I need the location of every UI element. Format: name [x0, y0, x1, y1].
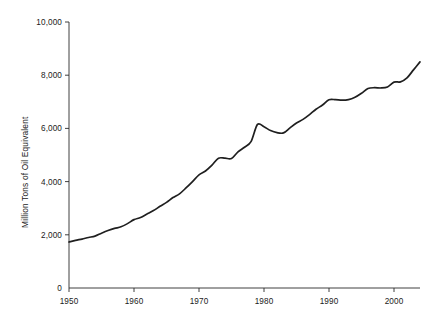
x-tick-label: 1980: [255, 297, 274, 306]
y-tick-label: 8,000: [41, 71, 62, 80]
y-tick-label: 10,000: [36, 18, 62, 27]
x-tick-label: 1990: [320, 297, 339, 306]
y-axis-ticks: [65, 22, 69, 235]
x-axis-ticks: [69, 288, 394, 292]
x-tick-label: 1970: [190, 297, 209, 306]
x-tick-label: 1950: [60, 297, 79, 306]
y-tick-label: 6,000: [41, 124, 62, 133]
chart-svg: 02,0004,0006,0008,00010,000 Million Tons…: [0, 0, 436, 328]
y-tick-label: 0: [57, 284, 62, 293]
x-axis-tick-labels: 195019601970198019902000: [60, 297, 404, 306]
y-axis-group: 02,0004,0006,0008,00010,000 Million Tons…: [20, 18, 69, 293]
x-tick-label: 2000: [385, 297, 404, 306]
plot-area: [69, 62, 420, 242]
y-axis-title: Million Tons of Oil Equivalent: [20, 116, 30, 228]
x-axis-group: 195019601970198019902000: [60, 288, 420, 306]
energy-consumption-chart: 02,0004,0006,0008,00010,000 Million Tons…: [0, 0, 436, 328]
x-tick-label: 1960: [125, 297, 144, 306]
y-axis-tick-labels: 02,0004,0006,0008,00010,000: [36, 18, 62, 293]
series-line-world-primary-energy-consumption: [69, 62, 420, 242]
y-tick-label: 2,000: [41, 231, 62, 240]
y-tick-label: 4,000: [41, 178, 62, 187]
